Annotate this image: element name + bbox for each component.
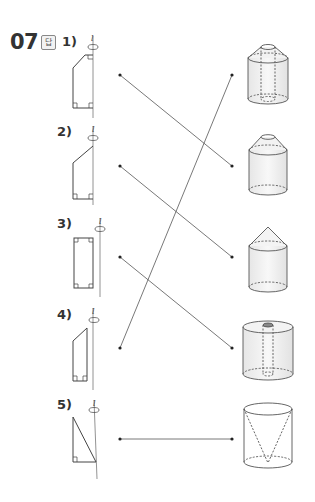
solid-5 xyxy=(244,403,292,468)
plane-figure-1: l xyxy=(73,34,98,118)
dot-right-1 xyxy=(230,73,233,76)
diagram-canvas: l l l l l xyxy=(0,0,315,502)
solid-1 xyxy=(248,45,288,105)
svg-text:l: l xyxy=(93,399,96,408)
svg-text:l: l xyxy=(92,307,95,316)
dot-left-5 xyxy=(118,437,121,440)
rotation-axis-5 xyxy=(94,400,97,479)
plane-figure-3: l xyxy=(74,217,105,297)
dot-right-3 xyxy=(230,255,233,258)
plane-figure-5: l xyxy=(73,399,99,479)
dot-left-3 xyxy=(118,255,121,258)
svg-text:l: l xyxy=(91,34,94,43)
dot-left-2 xyxy=(118,164,121,167)
connection-1-to-2 xyxy=(120,75,232,166)
svg-text:l: l xyxy=(99,217,102,226)
dot-right-2 xyxy=(230,164,233,167)
rotation-arrow-icon xyxy=(89,318,99,323)
dot-left-1 xyxy=(118,73,121,76)
dot-right-4 xyxy=(230,346,233,349)
solid-3 xyxy=(249,227,287,292)
connection-4-to-1 xyxy=(120,75,232,348)
plane-figure-2: l xyxy=(73,125,98,205)
dot-right-5 xyxy=(230,437,233,440)
solid-2 xyxy=(249,135,287,195)
plane-figure-4: l xyxy=(73,307,99,390)
answer-lines xyxy=(118,73,233,440)
svg-text:l: l xyxy=(92,125,95,134)
solid-4 xyxy=(243,321,293,380)
connection-3-to-4 xyxy=(120,257,232,348)
dot-left-4 xyxy=(118,346,121,349)
